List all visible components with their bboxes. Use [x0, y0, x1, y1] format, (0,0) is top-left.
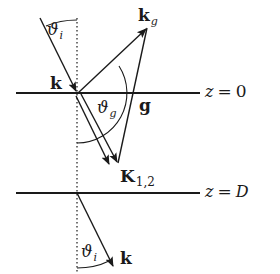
theta-symbol: ϑ [81, 242, 92, 261]
vector-label-K12: K1,2 [120, 168, 155, 185]
vector-label-g: g [139, 97, 151, 114]
K-symbol: K [120, 166, 135, 186]
z-value: D [236, 182, 249, 201]
angle-label-theta-i-bottom: ϑi [81, 244, 97, 260]
theta-symbol: ϑ [97, 98, 108, 117]
kg-subscript: g [151, 15, 158, 28]
theta-symbol: ϑ [47, 20, 58, 39]
theta-subscript: g [109, 107, 116, 120]
vector-label-transmitted-k: k [120, 250, 132, 267]
equals-sign: = [217, 181, 231, 201]
K-subscript: 1,2 [136, 175, 155, 189]
vector-label-incident-k: k [50, 75, 62, 92]
z-value: 0 [236, 81, 247, 101]
angle-label-theta-i-top: ϑi [47, 22, 63, 38]
theta-subscript: i [93, 251, 97, 264]
kg-symbol: k [138, 5, 150, 25]
diagram-canvas [0, 0, 280, 274]
z-symbol: z [205, 82, 213, 101]
vector-label-kg: kg [138, 7, 158, 24]
surface-label-zD: z = D [205, 183, 249, 200]
z-symbol: z [205, 182, 213, 201]
surface-label-z0: z = 0 [205, 83, 247, 100]
angle-label-theta-g: ϑg [97, 100, 116, 116]
theta-subscript: i [59, 29, 63, 42]
equals-sign: = [217, 81, 231, 101]
